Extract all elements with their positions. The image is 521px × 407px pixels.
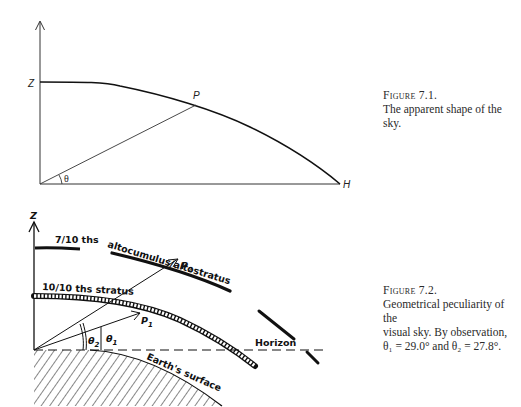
caption-line-1: Geometrical peculiarity of the: [383, 297, 521, 325]
sight-line-p1: [34, 313, 140, 350]
caption-figure-7-2: Figure 7.2. Geometrical peculiarity of t…: [383, 283, 521, 353]
label-horizon-2: Horizon: [255, 337, 296, 348]
angle-arc: [59, 175, 62, 184]
figure-7-1: Z P H θ: [27, 21, 351, 190]
label-theta1: θ1: [106, 333, 118, 347]
theta2-arc: [80, 324, 83, 350]
label-theta2: θ2: [88, 335, 100, 349]
caption-line-3: θ₁ = 29.0° and θ₂ = 27.8°.: [383, 339, 521, 353]
label-7-10ths: 7/10 ths: [55, 234, 99, 245]
caption-title: Figure 7.1.: [383, 88, 521, 102]
figure-7-2: Z 7/10 ths altocumulus/altostratus 10/10…: [29, 210, 328, 406]
caption-line-2: visual sky. By observation,: [383, 325, 521, 339]
caption-title: Figure 7.2.: [383, 283, 521, 297]
label-p1: P1: [141, 315, 153, 329]
label-zenith-2: Z: [29, 210, 38, 221]
label-altocumulus: altocumulus/altostratus: [106, 238, 232, 286]
label-horizon: H: [343, 179, 351, 190]
distant-cloud-1: [259, 311, 294, 339]
caption-figure-7-1: Figure 7.1. The apparent shape of the sk…: [383, 88, 521, 130]
label-theta: θ: [64, 173, 69, 184]
distant-cloud-2: [307, 352, 318, 363]
sky-dome-curve: [40, 82, 340, 184]
label-point: P: [193, 90, 200, 101]
cloud-7-10ths: [35, 248, 80, 249]
caption-text: The apparent shape of the sky.: [383, 102, 521, 130]
label-zenith: Z: [27, 78, 35, 89]
